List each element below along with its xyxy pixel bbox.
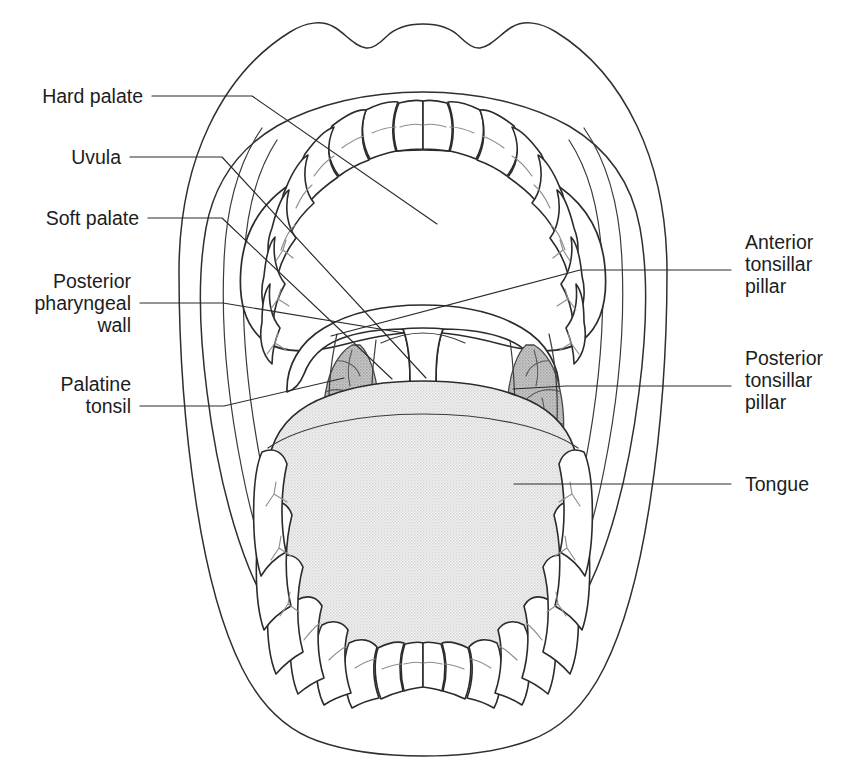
svg-text:pharyngeal: pharyngeal <box>35 292 132 314</box>
svg-text:pillar: pillar <box>745 391 787 413</box>
svg-text:Posterior: Posterior <box>53 270 132 292</box>
oral-cavity-diagram: Hard palate Uvula Soft palate Posterior … <box>0 0 846 775</box>
svg-text:wall: wall <box>96 314 131 336</box>
svg-text:tonsil: tonsil <box>85 395 131 417</box>
label-tongue: Tongue <box>745 473 809 495</box>
svg-text:tonsillar: tonsillar <box>745 369 813 391</box>
anatomy-figure: Hard palate Uvula Soft palate Posterior … <box>0 0 846 775</box>
svg-text:pillar: pillar <box>745 275 787 297</box>
label-hard-palate: Hard palate <box>42 85 143 107</box>
svg-text:tonsillar: tonsillar <box>745 253 813 275</box>
svg-text:Palatine: Palatine <box>61 373 131 395</box>
svg-text:Posterior: Posterior <box>745 347 824 369</box>
svg-text:Anterior: Anterior <box>745 231 814 253</box>
label-uvula: Uvula <box>71 146 121 168</box>
label-soft-palate: Soft palate <box>46 207 139 229</box>
